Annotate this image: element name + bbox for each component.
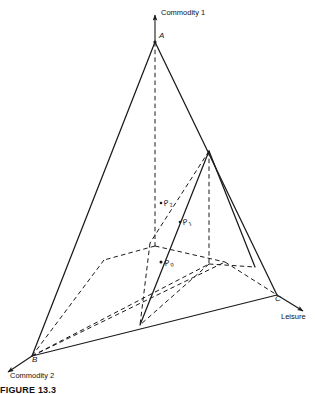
figure-canvas: Commodity 1 Commodity 2 Leisure A B C P2… [0,0,315,394]
diagonal-B-to-inner-foot [32,264,209,356]
marker-P1 [179,221,182,224]
figure-caption: FIGURE 13.3 [0,386,56,394]
sightline-apex-to-P1 [150,151,209,243]
vertex-label-B: B [32,356,37,364]
construction-lines [32,42,277,356]
axis-label-leisure: Leisure [281,313,306,321]
marker-P0 [160,261,163,264]
vertex-label-A: A [159,32,164,40]
diagram-svg [0,0,315,394]
marker-A [153,40,156,43]
vertex-label-C: C [275,295,281,303]
axis-arrow-commodity2 [8,356,32,372]
base-edge-left-to-B [32,260,104,356]
axis-label-commodity2: Commodity 2 [10,372,54,380]
marker-P2 [160,202,163,205]
inner-triangle [140,151,255,325]
axis-label-commodity1: Commodity 1 [161,9,205,17]
base-edge-left [104,246,155,260]
